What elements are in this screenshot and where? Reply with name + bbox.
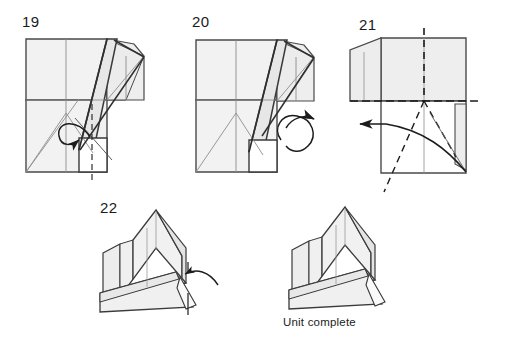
- panel19-bottom-tab: [79, 138, 107, 172]
- step-number-22: 22: [100, 199, 118, 216]
- origami-diagram-sheet: [0, 0, 513, 346]
- unit-complete-caption: Unit complete: [283, 316, 356, 328]
- step-number-19: 19: [22, 13, 40, 30]
- panel21-lower-body: [381, 101, 466, 173]
- panel21-right-flap: [455, 104, 466, 170]
- step-number-21: 21: [359, 16, 377, 33]
- panel20-bottom-tab: [249, 140, 277, 172]
- step-number-20: 20: [192, 13, 210, 30]
